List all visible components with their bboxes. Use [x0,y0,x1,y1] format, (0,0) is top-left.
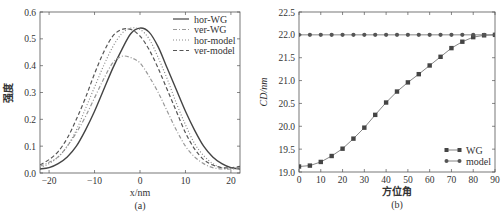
y-tick-label: 20.5 [278,99,295,109]
y-tick-label: 21.5 [278,53,295,63]
chart-panel-b: 010203040506070809019.019.520.020.521.02… [258,8,500,212]
x-tick-label: 80 [468,175,478,185]
y-tick-label: 20.0 [278,122,295,132]
x-tick-label: 90 [490,175,500,185]
legend-label: ver-model [194,45,235,56]
y-axis-label: CD/nm [258,78,269,107]
x-tick-label: −20 [42,176,57,186]
series-model [297,33,497,37]
chart-panel-a: −20−10010200.00.10.20.30.40.50.6x/nm(a)强… [2,8,240,213]
x-tick-label: 10 [316,175,326,185]
series-ver-wg [40,56,240,169]
x-tick-label: 50 [403,175,413,185]
y-tick-label: 22.0 [278,30,295,40]
legend-label: model [466,156,491,167]
y-tick-label: 0.5 [24,34,36,44]
panel-caption: (a) [134,200,145,212]
y-tick-label: 21.0 [278,76,295,86]
y-tick-label: 0.6 [24,8,36,18]
x-tick-label: 40 [381,175,391,185]
x-tick-label: 70 [447,175,457,185]
y-tick-label: 0.0 [24,169,36,179]
legend: WGmodel [445,145,492,167]
y-tick-label: 0.3 [24,88,36,98]
y-tick-label: 0.4 [24,61,36,71]
y-tick-label: 0.1 [24,142,36,152]
y-tick-label: 19.0 [278,168,295,178]
x-axis-label: x/nm [130,187,151,198]
x-tick-label: 20 [338,175,348,185]
figure: −20−10010200.00.10.20.30.40.50.6x/nm(a)强… [0,0,504,217]
x-tick-label: −10 [87,176,102,186]
y-axis-label: 强度 [2,82,14,103]
x-tick-label: 30 [360,175,370,185]
legend-label: hor-WG [194,14,227,25]
x-tick-label: 20 [226,176,236,186]
x-tick-label: 0 [138,176,143,186]
x-tick-label: 60 [425,175,435,185]
y-tick-label: 22.5 [278,8,295,18]
panel-caption: (b) [391,199,403,211]
x-tick-label: 10 [181,176,191,186]
y-tick-label: 0.2 [24,115,36,125]
legend: hor-WGver-WGhor-modelver-model [173,14,236,57]
legend-label: ver-WG [194,24,227,35]
legend-label: WG [466,145,483,156]
x-axis-label: 方位角 [382,185,412,197]
y-tick-label: 19.5 [278,145,295,155]
legend-label: hor-model [194,35,236,46]
x-tick-label: 0 [297,175,302,185]
